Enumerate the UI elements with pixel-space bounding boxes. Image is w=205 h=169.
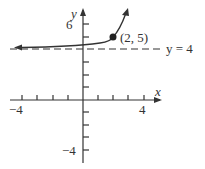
point-label: (2, 5) [120, 30, 148, 45]
asymptote-label: y = 4 [166, 41, 193, 56]
x-axis-label: x [154, 84, 161, 99]
point-marker [110, 34, 117, 41]
y-axis-arrow-icon [80, 8, 86, 16]
x-tick-label-4: 4 [139, 102, 146, 117]
y-tick-label-6: 6 [66, 17, 73, 32]
graph: y x 6 −4 −4 4 (2, 5) y = 4 [0, 0, 205, 169]
curve-right-arrow-icon [122, 8, 129, 16]
y-ticks [83, 24, 89, 150]
x-tick-label-neg4: −4 [9, 102, 23, 117]
y-tick-label-neg4: −4 [62, 143, 76, 158]
